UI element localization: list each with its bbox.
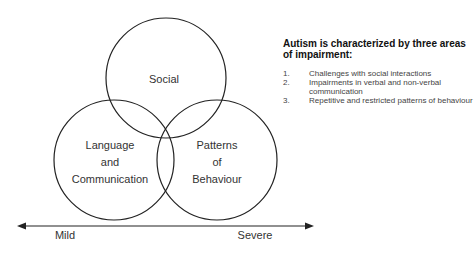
patterns-label-line2: of: [212, 156, 222, 168]
patterns-label-line1: Patterns: [197, 139, 238, 151]
language-label-line2: and: [101, 156, 119, 168]
impairments-list: 1. Challenges with social interactions 2…: [283, 69, 473, 105]
item-number: 3.: [283, 96, 309, 105]
list-item: 2. Impairments in verbal and non-verbal …: [283, 78, 473, 96]
item-number: 1.: [283, 69, 309, 78]
social-label: Social: [149, 73, 179, 85]
axis-mild-label: Mild: [55, 229, 75, 241]
patterns-label-line3: Behaviour: [192, 173, 242, 185]
language-label-line3: Communication: [72, 173, 148, 185]
arrow-left-icon: [17, 223, 26, 230]
item-text: Challenges with social interactions: [309, 69, 473, 78]
impairments-panel: Autism is characterized by three areas o…: [283, 38, 473, 105]
item-number: 2.: [283, 78, 309, 96]
list-item: 1. Challenges with social interactions: [283, 69, 473, 78]
axis-severe-label: Severe: [238, 229, 273, 241]
list-item: 3. Repetitive and restricted patterns of…: [283, 96, 473, 105]
item-text: Impairments in verbal and non-verbal com…: [309, 78, 473, 96]
language-label-line1: Language: [86, 139, 135, 151]
item-text: Repetitive and restricted patterns of be…: [309, 96, 473, 105]
arrow-right-icon: [305, 223, 314, 230]
panel-heading: Autism is characterized by three areas o…: [283, 38, 473, 60]
